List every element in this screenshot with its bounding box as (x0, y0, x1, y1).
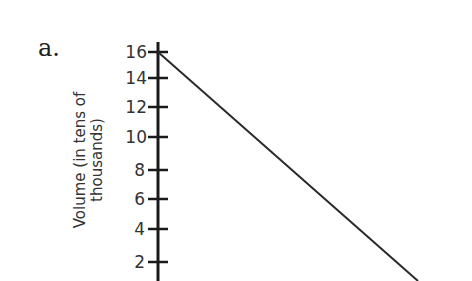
svg-text:12: 12 (125, 97, 147, 117)
y-axis-tick-labels: 16 14 12 10 8 6 4 2 (125, 42, 147, 272)
svg-text:Volume (in tens of: Volume (in tens of (71, 91, 89, 228)
volume-line (158, 52, 418, 281)
svg-text:2: 2 (134, 252, 145, 272)
part-label: a. (38, 34, 60, 62)
volume-chart: a. Volume (in tens of thousands) 16 14 1… (0, 0, 472, 281)
svg-text:8: 8 (134, 160, 145, 180)
svg-text:4: 4 (134, 219, 145, 239)
svg-text:14: 14 (125, 68, 147, 88)
svg-text:10: 10 (125, 127, 147, 147)
svg-text:6: 6 (134, 189, 145, 209)
y-axis-title: Volume (in tens of thousands) (71, 91, 106, 228)
svg-text:16: 16 (125, 42, 147, 62)
svg-text:thousands): thousands) (88, 118, 106, 202)
